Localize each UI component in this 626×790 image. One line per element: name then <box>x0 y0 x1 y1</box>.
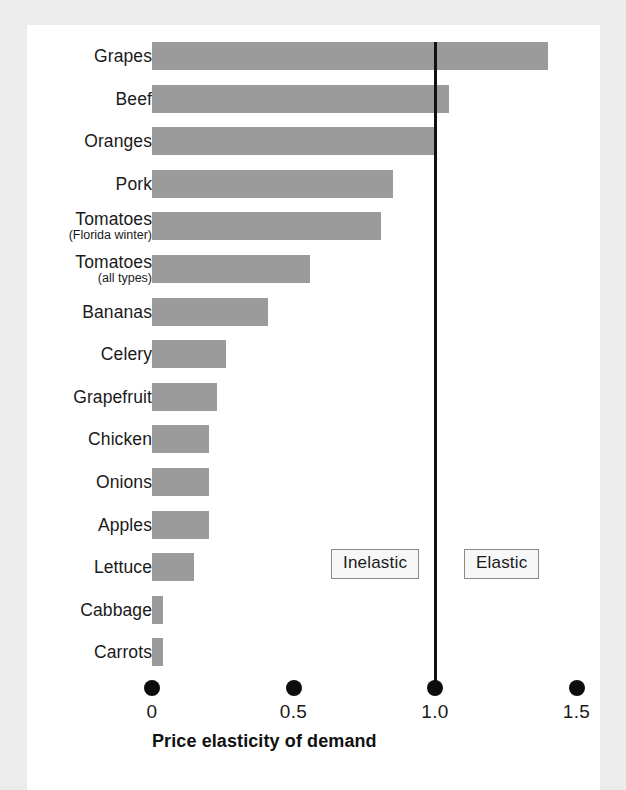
figure-canvas: GrapesBeefOrangesPorkTomatoes(Florida wi… <box>0 0 626 790</box>
x-axis-tick-label: 0 <box>147 701 158 723</box>
x-axis-tick-label: 1.0 <box>421 701 448 723</box>
x-axis-tick-label: 1.5 <box>563 701 590 723</box>
x-axis: 00.51.01.5 <box>0 0 626 790</box>
x-axis-title: Price elasticity of demand <box>152 731 377 752</box>
x-axis-tick-dot <box>427 680 443 696</box>
x-axis-tick-dot <box>569 680 585 696</box>
x-axis-tick-dot <box>286 680 302 696</box>
x-axis-tick-label: 0.5 <box>280 701 307 723</box>
x-axis-tick-dot <box>144 680 160 696</box>
